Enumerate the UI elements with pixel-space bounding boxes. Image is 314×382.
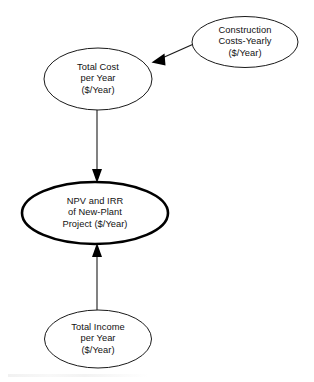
node-shape-total-income[interactable] xyxy=(45,310,152,368)
scan-artifact xyxy=(8,374,148,377)
edge-total-income-to-npv xyxy=(92,243,102,310)
edge-construction-to-total-cost xyxy=(152,43,198,66)
edge-total-cost-to-npv xyxy=(92,110,102,183)
diagram-canvas: Construction Costs-Yearly ($/Year) Total… xyxy=(0,0,314,382)
node-shape-total-cost[interactable] xyxy=(44,48,152,110)
arrowhead-construction-to-total-cost xyxy=(152,54,166,66)
node-shape-npv-irr[interactable] xyxy=(22,182,168,244)
diagram-graphics xyxy=(0,0,314,382)
node-shape-construction-costs[interactable] xyxy=(192,17,298,68)
edge-line-construction-to-total-cost xyxy=(161,43,197,59)
